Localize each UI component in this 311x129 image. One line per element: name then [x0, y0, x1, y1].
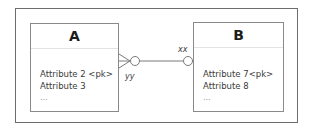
role-label-xx: xx: [178, 45, 187, 54]
role-label-yy: yy: [125, 72, 134, 81]
crows-foot-icon: [119, 54, 130, 68]
optional-circle-icon: [131, 57, 140, 66]
optional-circle-icon: [184, 57, 193, 66]
relationship-connector[interactable]: [0, 0, 311, 129]
